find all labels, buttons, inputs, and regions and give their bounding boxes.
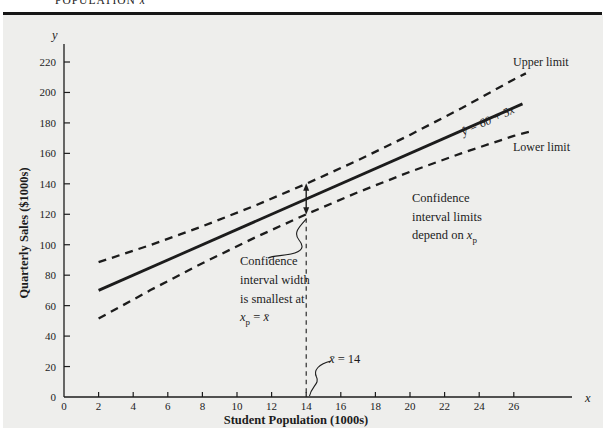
upper-limit-label: Upper limit bbox=[513, 55, 569, 70]
annotation-confidence-width-line3: is smallest at bbox=[240, 290, 310, 309]
y-tick-label: 100 bbox=[40, 239, 57, 251]
annotation-confidence-limits-line1: Confidence bbox=[412, 189, 482, 208]
x-axis-title: Student Population (1000s) bbox=[224, 413, 368, 428]
x-axis-letter: x bbox=[585, 391, 591, 406]
lower-limit-label: Lower limit bbox=[513, 140, 570, 155]
xbar-value-label: x̄ = 14 bbox=[329, 352, 360, 367]
x-tick-label: 2 bbox=[96, 400, 102, 412]
y-axis-letter: y bbox=[52, 28, 58, 43]
y-tick-label: 140 bbox=[40, 178, 57, 190]
interval-arrow-head-top bbox=[303, 183, 309, 191]
y-tick-label: 180 bbox=[40, 117, 57, 129]
x-tick-label: 18 bbox=[370, 400, 382, 412]
x-tick-label: 20 bbox=[405, 400, 417, 412]
leader-squiggle-xbar bbox=[310, 361, 332, 396]
y-tick-label: 160 bbox=[40, 147, 57, 159]
x-tick-label: 24 bbox=[474, 400, 486, 412]
annotation-confidence-width-line2: interval width bbox=[240, 271, 310, 290]
y-tick-label: 200 bbox=[40, 86, 57, 98]
y-axis-title: Quarterly Sales ($1000s) bbox=[17, 167, 32, 298]
interval-arrow-head-bottom bbox=[303, 207, 309, 215]
annotation-equals-text: = bbox=[250, 310, 263, 324]
annotation-depend-on-text: depend on bbox=[412, 228, 467, 242]
x-tick-label: 0 bbox=[61, 400, 67, 412]
x-tick-label: 22 bbox=[439, 400, 450, 412]
annotation-confidence-limits-line2: interval limits bbox=[412, 208, 482, 227]
y-tick-label: 0 bbox=[51, 391, 57, 403]
x-tick-label: 8 bbox=[200, 400, 206, 412]
x-tick-label: 16 bbox=[335, 400, 347, 412]
x-tick-label: 26 bbox=[508, 400, 520, 412]
annotation-xp-subscript: p bbox=[472, 235, 477, 245]
annotation-confidence-width-line4: xp = x̄ bbox=[240, 308, 310, 331]
y-tick-label: 40 bbox=[45, 330, 57, 342]
annotation-xbar-symbol: x̄ bbox=[263, 310, 269, 324]
annotation-confidence-width-line1: Confidence bbox=[240, 252, 310, 271]
x-tick-label: 10 bbox=[232, 400, 244, 412]
x-tick-label: 12 bbox=[266, 400, 277, 412]
annotation-confidence-limits: Confidence interval limits depend on xp bbox=[412, 189, 482, 249]
y-tick-label: 120 bbox=[40, 208, 57, 220]
xbar-value-text: = 14 bbox=[335, 352, 361, 366]
y-tick-label: 80 bbox=[45, 269, 57, 281]
annotation-confidence-limits-line3: depend on xp bbox=[412, 226, 482, 249]
x-tick-label: 6 bbox=[165, 400, 171, 412]
y-tick-label: 60 bbox=[45, 300, 57, 312]
page-container: POPULATION x 024681012141618202224260204… bbox=[0, 0, 606, 428]
y-tick-label: 220 bbox=[40, 56, 57, 68]
x-tick-label: 4 bbox=[130, 400, 136, 412]
annotation-confidence-width: Confidence interval width is smallest at… bbox=[240, 252, 310, 332]
x-tick-label: 14 bbox=[301, 400, 313, 412]
y-tick-label: 20 bbox=[45, 361, 57, 373]
